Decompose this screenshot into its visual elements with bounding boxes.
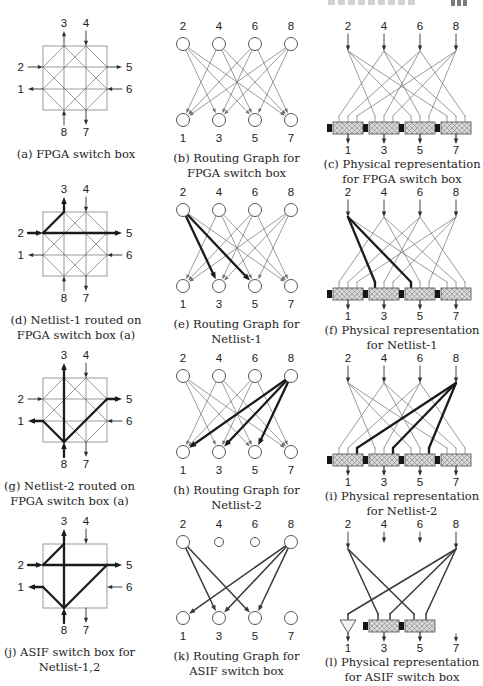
svg-text:3: 3 (381, 642, 387, 654)
svg-text:6: 6 (251, 518, 257, 530)
panel-e-routing-graph-netlist1: 24681357 (e) Routing Graph for Netlist-1 (152, 184, 321, 350)
svg-text:2: 2 (18, 393, 24, 405)
svg-text:1: 1 (179, 132, 185, 144)
svg-text:8: 8 (61, 624, 67, 636)
svg-text:6: 6 (251, 352, 257, 364)
svg-text:5: 5 (417, 144, 423, 156)
svg-text:4: 4 (83, 350, 90, 361)
c-svg: 24681357 (322, 18, 482, 156)
svg-text:1: 1 (18, 83, 24, 95)
panel-c-caption: (c) Physical representation for FPGA swi… (323, 157, 480, 187)
panel-b-diagram: 24681357 (157, 18, 317, 150)
caption-line: FPGA switch box (a) (4, 494, 135, 509)
panel-l-caption: (l) Physical representation for ASIF swi… (325, 655, 479, 685)
caption-line: (a) FPGA switch box (17, 147, 136, 162)
svg-text:4: 4 (83, 184, 90, 195)
caption-line: (j) ASIF switch box for (4, 645, 135, 660)
svg-text:4: 4 (381, 186, 388, 198)
svg-text:7: 7 (83, 458, 89, 470)
svg-text:7: 7 (287, 464, 293, 476)
svg-text:2: 2 (179, 518, 185, 530)
panel-c-diagram: 24681357 (322, 18, 482, 156)
svg-text:8: 8 (287, 20, 293, 32)
panel-f-caption: (f) Physical representation for Netlist-… (325, 323, 480, 353)
svg-text:7: 7 (83, 624, 89, 636)
svg-text:3: 3 (215, 132, 221, 144)
b-svg: 24681357 (157, 18, 317, 150)
svg-text:7: 7 (453, 476, 459, 488)
svg-text:7: 7 (453, 144, 459, 156)
svg-text:6: 6 (251, 186, 257, 198)
svg-text:7: 7 (453, 310, 459, 322)
d-svg: 12345678 (1, 184, 151, 312)
panel-a-diagram: 12345678 (1, 18, 151, 146)
svg-text:5: 5 (251, 132, 257, 144)
panel-f-diagram: 24681357 (322, 184, 482, 322)
caption-line: (d) Netlist-1 routed on (11, 313, 142, 328)
caption-line: ASIF switch box (174, 664, 300, 679)
svg-text:1: 1 (18, 415, 24, 427)
panel-l-diagram: 24681357 (322, 516, 482, 654)
svg-text:8: 8 (453, 186, 459, 198)
svg-text:5: 5 (251, 298, 257, 310)
svg-text:2: 2 (18, 227, 24, 239)
h-svg: 24681357 (157, 350, 317, 482)
svg-text:3: 3 (381, 144, 387, 156)
svg-text:1: 1 (18, 581, 24, 593)
svg-text:7: 7 (287, 132, 293, 144)
svg-text:5: 5 (126, 61, 132, 73)
running-header-remnant (328, 0, 416, 5)
caption-line: for ASIF switch box (325, 670, 479, 685)
j-svg: 12345678 (1, 516, 151, 644)
svg-text:4: 4 (381, 352, 388, 364)
caption-line: FPGA switch box (a) (11, 328, 142, 343)
svg-text:2: 2 (345, 352, 351, 364)
svg-text:4: 4 (215, 518, 222, 530)
svg-text:1: 1 (345, 144, 351, 156)
svg-text:6: 6 (251, 20, 257, 32)
svg-text:7: 7 (83, 292, 89, 304)
panel-g-caption: (g) Netlist-2 routed on FPGA switch box … (4, 479, 135, 509)
svg-text:8: 8 (61, 126, 67, 138)
svg-text:8: 8 (61, 458, 67, 470)
panel-d-diagram: 12345678 (1, 184, 151, 312)
caption-line: (b) Routing Graph for (173, 151, 299, 166)
svg-text:5: 5 (417, 642, 423, 654)
a-svg: 12345678 (1, 18, 151, 146)
panel-d-netlist1-switch-box: 12345678 (d) Netlist-1 routed on FPGA sw… (0, 184, 152, 350)
panel-e-diagram: 24681357 (157, 184, 317, 316)
svg-text:6: 6 (417, 352, 423, 364)
svg-text:4: 4 (215, 20, 222, 32)
svg-text:2: 2 (345, 518, 351, 530)
svg-text:7: 7 (287, 630, 293, 642)
svg-text:1: 1 (179, 630, 185, 642)
svg-text:2: 2 (345, 186, 351, 198)
svg-text:3: 3 (215, 630, 221, 642)
panel-j-caption: (j) ASIF switch box for Netlist-1,2 (4, 645, 135, 675)
caption-line: (c) Physical representation (323, 157, 480, 172)
svg-text:6: 6 (417, 20, 423, 32)
caption-line: (f) Physical representation (325, 323, 480, 338)
svg-text:6: 6 (126, 83, 132, 95)
caption-line: (k) Routing Graph for (174, 649, 300, 664)
caption-line: (l) Physical representation (325, 655, 479, 670)
svg-text:6: 6 (126, 415, 132, 427)
svg-text:6: 6 (417, 518, 423, 530)
caption-line: (e) Routing Graph for (174, 317, 300, 332)
panel-h-caption: (h) Routing Graph for Netlist-2 (173, 483, 299, 513)
svg-text:7: 7 (287, 298, 293, 310)
e-svg: 24681357 (157, 184, 317, 316)
panel-a-caption: (a) FPGA switch box (17, 147, 136, 162)
svg-text:8: 8 (287, 518, 293, 530)
svg-text:5: 5 (126, 227, 132, 239)
panel-b-routing-graph-fpga: 24681357 (b) Routing Graph for FPGA swit… (152, 18, 321, 184)
panel-b-caption: (b) Routing Graph for FPGA switch box (173, 151, 299, 181)
caption-line: FPGA switch box (173, 166, 299, 181)
f-svg: 24681357 (322, 184, 482, 322)
svg-text:8: 8 (453, 20, 459, 32)
svg-text:8: 8 (61, 292, 67, 304)
svg-text:1: 1 (345, 476, 351, 488)
g-svg: 12345678 (1, 350, 151, 478)
panel-h-routing-graph-netlist2: 24681357 (h) Routing Graph for Netlist-2 (152, 350, 321, 516)
svg-text:6: 6 (126, 249, 132, 261)
